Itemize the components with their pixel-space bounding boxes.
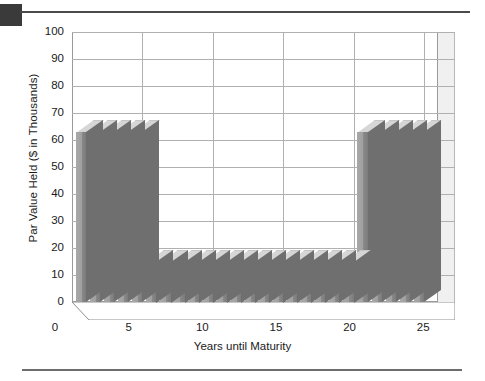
x-axis-title: Years until Maturity [0,340,485,352]
bar-chart: Par Value Held ($ in Thousands) 01020304… [0,0,485,381]
figure-container: Par Value Held ($ in Thousands) 01020304… [0,0,485,381]
bar-front-face [76,132,86,302]
bar-series [0,0,485,381]
bar [76,120,103,302]
bar-side-face [86,120,103,302]
